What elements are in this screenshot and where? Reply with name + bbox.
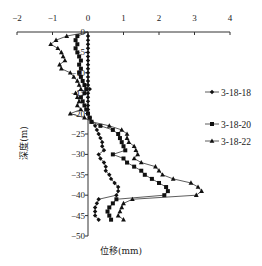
legend-label: 3-18-20 xyxy=(221,120,251,130)
diamond-marker xyxy=(86,79,90,83)
triangle-marker xyxy=(119,205,124,209)
square-marker xyxy=(157,181,161,185)
series-line xyxy=(88,32,118,220)
triangle-marker xyxy=(132,144,137,148)
square-marker xyxy=(107,205,111,209)
square-marker xyxy=(111,128,115,132)
legend-item: 3-18-20 xyxy=(205,120,251,130)
diamond-marker xyxy=(96,197,100,201)
square-marker xyxy=(111,152,115,156)
square-marker xyxy=(82,83,86,87)
triangle-marker xyxy=(116,213,121,217)
square-marker xyxy=(116,132,120,136)
triangle-marker xyxy=(75,103,80,107)
square-marker xyxy=(125,161,129,165)
square-marker xyxy=(210,122,214,126)
y-tick-label: 0 xyxy=(81,27,86,37)
square-marker xyxy=(122,156,126,160)
triangle-marker xyxy=(126,140,131,144)
square-marker xyxy=(81,79,85,83)
axes xyxy=(17,32,230,236)
square-marker xyxy=(86,112,90,116)
legend-label: 3-18-18 xyxy=(221,88,251,98)
diamond-marker xyxy=(93,205,97,209)
y-axis-title: 深度(m) xyxy=(18,126,29,160)
diamond-marker xyxy=(95,201,99,205)
diamond-marker xyxy=(100,140,104,144)
diamond-marker xyxy=(96,132,100,136)
y-tick-label: −25 xyxy=(71,129,86,139)
square-marker xyxy=(166,189,170,193)
square-marker xyxy=(132,165,136,169)
x-tick-label: 1 xyxy=(121,13,126,23)
square-marker xyxy=(164,185,168,189)
diamond-marker xyxy=(86,58,90,62)
triangle-marker xyxy=(135,152,140,156)
square-marker xyxy=(139,169,143,173)
square-marker xyxy=(150,177,154,181)
diamond-marker xyxy=(86,54,90,58)
square-marker xyxy=(79,67,83,71)
triangle-marker xyxy=(59,66,64,70)
square-marker xyxy=(88,116,92,120)
x-tick-label: 2 xyxy=(157,13,162,23)
square-marker xyxy=(109,218,113,222)
square-marker xyxy=(74,46,78,50)
diamond-marker xyxy=(86,67,90,71)
diamond-marker xyxy=(114,193,118,197)
square-marker xyxy=(79,59,83,63)
diamond-marker xyxy=(86,95,90,99)
diamond-marker xyxy=(86,50,90,54)
triangle-marker xyxy=(55,46,60,50)
triangle-marker xyxy=(48,42,53,46)
square-marker xyxy=(75,42,79,46)
legend-label: 3-18-22 xyxy=(221,137,251,147)
x-axis-title: 位移(mm) xyxy=(100,245,142,256)
diamond-marker xyxy=(86,91,90,95)
diamond-marker xyxy=(86,34,90,38)
square-marker xyxy=(143,173,147,177)
square-marker xyxy=(106,210,110,214)
y-tick-label: −30 xyxy=(71,149,86,159)
square-marker xyxy=(107,214,111,218)
square-marker xyxy=(74,38,78,42)
triangle-marker xyxy=(139,160,144,164)
square-marker xyxy=(118,136,122,140)
x-tick-label: −1 xyxy=(48,13,58,23)
y-tick-label: −35 xyxy=(71,170,86,180)
x-tick-label: −2 xyxy=(12,13,22,23)
y-tick-label: −45 xyxy=(71,211,86,221)
depth-displacement-chart: −2−101234 0−5−10−15−20−25−30−35−40−45−50… xyxy=(0,0,262,266)
diamond-marker xyxy=(104,164,108,168)
x-tick-label: 0 xyxy=(86,13,91,23)
triangle-marker xyxy=(194,193,199,197)
diamond-marker xyxy=(86,62,90,66)
diamond-marker xyxy=(86,83,90,87)
triangle-marker xyxy=(57,62,62,66)
legend: 3-18-183-18-203-18-22 xyxy=(205,88,251,147)
diamond-marker xyxy=(210,90,214,94)
square-marker xyxy=(114,197,118,201)
diamond-marker xyxy=(86,75,90,79)
triangle-marker xyxy=(63,58,68,62)
diamond-marker xyxy=(86,38,90,42)
square-marker xyxy=(162,193,166,197)
square-marker xyxy=(82,103,86,107)
triangle-marker xyxy=(134,148,139,152)
diamond-marker xyxy=(86,99,90,103)
diamond-marker xyxy=(86,71,90,75)
square-marker xyxy=(111,201,115,205)
square-marker xyxy=(84,108,88,112)
diamond-marker xyxy=(98,136,102,140)
x-tick-label: 4 xyxy=(228,13,233,23)
triangle-marker xyxy=(121,217,126,221)
square-marker xyxy=(77,71,81,75)
diamond-marker xyxy=(116,189,120,193)
legend-item: 3-18-18 xyxy=(205,88,251,98)
triangle-marker xyxy=(118,209,123,213)
diamond-marker xyxy=(93,209,97,213)
square-marker xyxy=(123,148,127,152)
square-marker xyxy=(79,75,83,79)
triangle-marker xyxy=(61,54,66,58)
triangle-marker xyxy=(125,131,130,135)
